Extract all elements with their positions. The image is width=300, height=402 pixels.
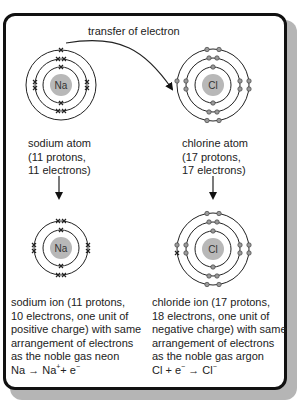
sodium-ion-symbol: Na	[55, 243, 68, 254]
transfer-arrow	[66, 41, 172, 89]
sodium-atom-label: sodium atom (11 protons, 11 electrons)	[28, 137, 91, 178]
chloride-ion-description: chloride ion (17 protons, 18 electrons, …	[152, 296, 287, 378]
label-line: (17 protons,	[182, 151, 248, 165]
desc-line: positive charge) with same	[11, 323, 141, 337]
chlorine-atom-label: chlorine atom (17 protons, 17 electrons)	[182, 137, 248, 178]
desc-line: chloride ion (17 protons,	[152, 296, 287, 310]
label-line: 17 electrons)	[182, 164, 248, 178]
desc-line: sodium ion (11 protons,	[11, 296, 141, 310]
sodium-atom: Na	[26, 48, 96, 120]
chlorine-symbol: Cl	[208, 80, 217, 91]
chloride-ion-symbol: Cl	[208, 244, 217, 255]
desc-line: arrangement of electrons	[152, 337, 287, 351]
desc-line: 10 electrons, one unit of	[11, 310, 141, 324]
label-line: chlorine atom	[182, 137, 248, 151]
chloride-equation: Cl + e− → Cl−	[152, 364, 287, 378]
transfer-label: transfer of electron	[88, 25, 180, 39]
desc-line: arrangement of electrons	[11, 337, 141, 351]
sodium-equation: Na → Na++ e−	[11, 364, 141, 378]
chloride-ion: Cl	[175, 211, 251, 286]
label-line: 11 electrons)	[28, 164, 91, 178]
desc-line: negative charge) with same	[152, 323, 287, 337]
label-line: (11 protons,	[28, 151, 91, 165]
chlorine-atom: Cl	[175, 47, 251, 122]
desc-line: 18 electrons, one unit of	[152, 310, 287, 324]
desc-line: as the noble gas argon	[152, 350, 287, 364]
sodium-ion: Na	[32, 219, 90, 277]
sodium-ion-description: sodium ion (11 protons, 10 electrons, on…	[11, 296, 141, 378]
desc-line: as the noble gas neon	[11, 350, 141, 364]
label-line: sodium atom	[28, 137, 91, 151]
sodium-symbol: Na	[55, 80, 68, 91]
